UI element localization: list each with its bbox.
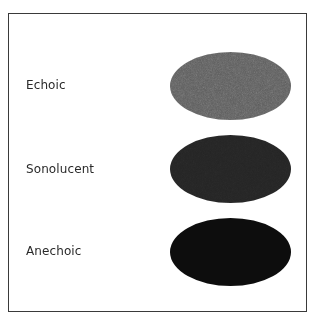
sonolucent-label: Sonolucent bbox=[26, 162, 94, 176]
speckle-texture-icon bbox=[170, 135, 291, 203]
sonolucent-ellipse bbox=[170, 135, 291, 203]
echoic-ellipse bbox=[170, 52, 291, 120]
anechoic-ellipse bbox=[170, 218, 291, 286]
anechoic-label: Anechoic bbox=[26, 244, 81, 258]
echoic-label: Echoic bbox=[26, 78, 66, 92]
speckle-texture-icon bbox=[170, 52, 291, 120]
